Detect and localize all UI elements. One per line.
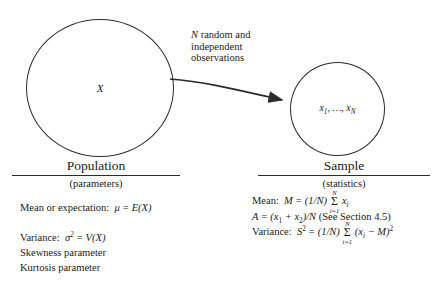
population-formula-list: Mean or expectation: μ=E(X) Variance: σ2… [20, 201, 152, 275]
population-heading-rule [12, 175, 180, 176]
arrow-annotation-line-1-rest: random and [198, 29, 251, 40]
sample-mean-label: Mean: [252, 195, 279, 206]
sample-variance-term-exponent: 2 [390, 224, 394, 232]
sampling-arrow-icon [160, 68, 300, 113]
population-skewness-line: Skewness parameter [20, 245, 152, 260]
population-variance-equals: = [77, 232, 83, 243]
sample-heading-subtitle: (statistics) [258, 177, 430, 191]
sample-variance-factor: (1/N) [318, 226, 340, 237]
arrow-annotation-line-1: N random and [191, 29, 251, 41]
sample-variance-sum-lower: i=1 [341, 238, 354, 245]
population-kurtosis-line: Kurtosis parameter [20, 260, 152, 275]
population-mean-mu: μ [114, 202, 119, 213]
sample-heading-rule [258, 175, 430, 176]
sample-variance-summation: NΣi=1 [341, 227, 354, 238]
population-mean-label: Mean or expectation: [20, 202, 109, 213]
sample-alt-open: (x [270, 211, 278, 222]
sample-mean-formula: Mean: M=(1/N)NΣi=1xi [252, 194, 393, 209]
sample-x-last-sub: N [351, 108, 356, 116]
arrow-annotation-n: N [191, 29, 198, 40]
sample-variance-term-open: (x [355, 226, 363, 237]
sample-mean-symbol: M [284, 195, 293, 206]
sample-alt-symbol: A [252, 211, 258, 222]
sample-circle: x1, …, xN [290, 62, 385, 156]
arrow-annotation-line-2: independent [191, 41, 251, 53]
statistics-diagram-page: X x1, …, xN N random and independent obs… [0, 0, 439, 297]
sample-alt-equals: = [261, 211, 267, 222]
sample-mean-term-index: i [347, 201, 349, 209]
population-heading-title: Population [12, 158, 180, 174]
sample-formula-list: Mean: M=(1/N)NΣi=1xi A=(x1 + x2)/N (See … [252, 194, 393, 239]
sample-variance-formula: Variance: S2=(1/N)NΣi=1(xi − M)2 [252, 224, 393, 239]
population-variance-argument: (X) [92, 232, 105, 243]
sample-heading-title: Sample [258, 158, 430, 174]
sample-mean-summation: NΣi=1 [328, 196, 341, 207]
population-circle-label: X [27, 82, 173, 94]
population-mean-argument: (X) [138, 202, 151, 213]
sample-variance-exponent: 2 [302, 224, 306, 232]
population-variance-label: Variance: [20, 232, 60, 243]
sample-variance-sum-glyph: Σ [341, 227, 354, 238]
sample-mean-sum-lower: i=1 [328, 207, 341, 214]
population-heading: Population (parameters) [12, 158, 180, 191]
population-circle: X [26, 19, 174, 157]
population-mean-formula: Mean or expectation: μ=E(X) [20, 201, 152, 216]
sample-alt-close: )/N [303, 211, 316, 222]
sample-circle-label: x1, …, xN [291, 102, 384, 113]
sample-heading: Sample (statistics) [258, 158, 430, 191]
sample-variance-label: Variance: [252, 226, 292, 237]
sample-variance-equals: = [309, 226, 315, 237]
population-variance-formula: Variance: σ2=V(X) [20, 231, 152, 246]
sample-x-ellipsis: , …, [327, 102, 346, 113]
sample-variance-sum-upper: N [341, 220, 354, 227]
sample-alt-mean-formula: A=(x1 + x2)/N (See Section 4.5) [252, 209, 393, 224]
sample-mean-equals: = [296, 195, 302, 206]
sample-mean-sum-glyph: Σ [328, 196, 341, 207]
sample-variance-term-index: i [363, 232, 365, 240]
sample-mean-sum-upper: N [328, 189, 341, 196]
arrow-annotation: N random and independent observations [191, 29, 251, 64]
population-mean-equals: = [123, 202, 129, 213]
arrow-annotation-line-3: observations [191, 52, 251, 64]
population-variance-sigma-exponent: 2 [70, 230, 74, 238]
sample-variance-minus-mean: − M) [368, 226, 390, 237]
sample-alt-plus: + x [285, 211, 299, 222]
population-heading-subtitle: (parameters) [12, 177, 180, 191]
sample-mean-factor: (1/N) [305, 195, 327, 206]
